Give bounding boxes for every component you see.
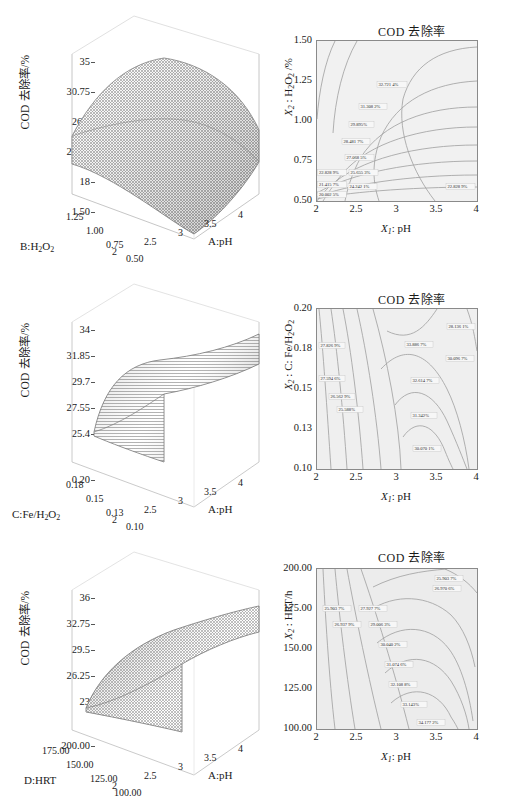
contour-label: 26.562 9% <box>331 394 351 399</box>
y-tick: 0.18 <box>66 479 84 490</box>
contour-label: 22.828 9% <box>319 170 339 175</box>
x-tick: 4 <box>461 731 491 742</box>
x-tick: 2.5 <box>341 471 371 482</box>
x-tick: 3.5 <box>204 486 217 497</box>
y-tick: 0.50 <box>126 253 144 264</box>
contour-label: 27.068 5% <box>347 155 367 160</box>
contour-label: 30.070 1% <box>415 446 435 451</box>
contour-label: 31.308 2% <box>361 104 381 109</box>
x-axis-name: A:pH <box>208 769 232 781</box>
x-tick: 2 <box>301 731 331 742</box>
x-axis-label: X1: pH <box>316 750 476 764</box>
chart-title: COD 去除率 <box>312 22 512 40</box>
y-tick: 1.00 <box>86 225 104 236</box>
y-axis-name: C:Fe/H2O2 <box>12 508 60 522</box>
x-tick: 3.5 <box>204 218 217 229</box>
surface-plot-ph-hrt: COD 去除率/% 36 32.75 29.5 26.25 23 200.00 <box>0 536 256 799</box>
figure-response-surface-grid: COD 去除率/% 35 30.75 26.5 22.25 18 1.50 <box>0 0 513 799</box>
x-tick: 3 <box>381 731 411 742</box>
chart-title: COD 去除率 <box>312 290 512 308</box>
surface-plot-ph-fe-h2o2: COD 去除率/% 34 31.85 29.7 27.55 25.4 0.20 <box>0 268 256 534</box>
x-tick: 3 <box>381 471 411 482</box>
surface-plot-ph-h2o2: COD 去除率/% 35 30.75 26.5 22.25 18 1.50 <box>0 0 256 266</box>
y-tick: 0.75 <box>294 154 312 165</box>
contour-label: 30.040 2% <box>381 642 401 647</box>
contour-plot-ph-fe-h2o2: COD 去除率 X2 : C: Fe/H2O2 0.20 0.18 0.15 0… <box>256 268 513 534</box>
contour-label: 25.655 3% <box>351 170 371 175</box>
y-tick: 175.00 <box>283 602 312 613</box>
y-tick: 0.15 <box>86 493 104 504</box>
contour-label: 27.927 7% <box>361 606 381 611</box>
x-tick: 3.5 <box>421 731 451 742</box>
x-tick: 2 <box>301 203 331 214</box>
x-axis-ticks: 2 2.5 3 3.5 4 <box>300 471 492 489</box>
y-tick: 0.15 <box>294 382 312 393</box>
contour-label: 25.903 7% <box>325 606 345 611</box>
x-axis-label: X1: pH <box>316 490 476 504</box>
x-tick: 3.5 <box>421 203 451 214</box>
y-tick: 125.00 <box>90 773 118 784</box>
y-tick: 1.25 <box>294 74 312 85</box>
contour-label: 26.937 9% <box>335 622 355 627</box>
x-tick: 3 <box>178 761 183 772</box>
contour-label: 29.006 3% <box>371 622 391 627</box>
y-axis-ticks: 0.20 0.18 0.15 0.13 0.10 <box>264 300 312 476</box>
x-tick: 4 <box>238 209 243 220</box>
contour-label: 30.096 7% <box>448 356 468 361</box>
x-tick: 4 <box>238 743 243 754</box>
y-axis-ticks: 1.25 1.00 0.75 0.50 <box>14 212 174 266</box>
contour-label: 33.143% <box>403 702 420 707</box>
contour-label: 27.826 9% <box>321 343 341 348</box>
contour-label: 20.002 5% <box>319 192 339 197</box>
y-tick: 100.00 <box>114 787 142 798</box>
x-tick: 4 <box>238 477 243 488</box>
x-axis-name: A:pH <box>208 235 232 247</box>
y-tick: 0.13 <box>294 422 312 433</box>
contour-label: 28.481 7% <box>344 139 364 144</box>
contour-label: 25.903 7% <box>437 576 457 581</box>
contour-label: 32.614 7% <box>413 378 433 383</box>
x-tick: 2.5 <box>341 731 371 742</box>
contour-label: 24.242 1% <box>350 184 370 189</box>
panel-row-2: COD 去除率/% 34 31.85 29.7 27.55 25.4 0.20 <box>0 268 513 534</box>
surface-3d-canvas <box>64 312 248 496</box>
y-axis-name: D:HRT <box>24 774 56 786</box>
surface-3d-canvas <box>64 580 248 764</box>
contour-label: 31.074 6% <box>387 662 407 667</box>
contour-canvas: 25.903 7% 26.970 6% 25.903 7% 27.927 7% … <box>316 568 478 730</box>
contour-plot-ph-h2o2: COD 去除率 X2 : H2O2 /% 1.50 1.25 1.00 0.75… <box>256 0 513 266</box>
y-tick: 150.00 <box>66 759 94 770</box>
y-axis-ticks: 1.50 1.25 1.00 0.75 0.50 <box>264 32 312 208</box>
contour-label: 28.136 1% <box>449 324 469 329</box>
contour-label: 32.721 4% <box>379 82 399 87</box>
contour-label: 25.588% <box>339 407 356 412</box>
y-tick: 1.50 <box>294 34 312 45</box>
x-tick: 3 <box>178 227 183 238</box>
y-tick: 200.00 <box>283 562 312 573</box>
contour-canvas: 32.721 4% 31.308 2% 29.895% 28.481 7% 27… <box>316 40 478 202</box>
contour-label: 26.970 6% <box>435 586 455 591</box>
y-tick: 0.13 <box>106 507 124 518</box>
y-axis-ticks: 200.00 175.00 150.00 125.00 100.00 <box>264 560 312 736</box>
x-tick: 4 <box>461 203 491 214</box>
contour-label: 22.828 9% <box>448 184 468 189</box>
y-tick: 175.00 <box>42 745 70 756</box>
x-axis-ticks: 2 2.5 3 3.5 4 <box>300 203 492 221</box>
panel-row-3: COD 去除率/% 36 32.75 29.5 26.25 23 200.00 <box>0 536 513 799</box>
contour-label: 21.415 7% <box>319 182 339 187</box>
x-tick: 4 <box>461 471 491 482</box>
x-tick: 3 <box>381 203 411 214</box>
contour-label: 29.895% <box>351 122 368 127</box>
y-tick: 0.20 <box>294 302 312 313</box>
y-tick: 1.25 <box>66 211 84 222</box>
contour-label: 31.342% <box>413 413 430 418</box>
y-tick: 150.00 <box>283 642 312 653</box>
surface-3d-canvas <box>64 44 248 228</box>
y-axis-name: B:H2O2 <box>20 240 54 254</box>
y-tick: 1.00 <box>294 114 312 125</box>
x-tick: 3.5 <box>421 471 451 482</box>
x-axis-name: A:pH <box>208 503 232 515</box>
contour-label: 34.177 2% <box>419 720 439 725</box>
x-tick: 2.5 <box>341 203 371 214</box>
y-tick: 0.10 <box>126 521 144 532</box>
